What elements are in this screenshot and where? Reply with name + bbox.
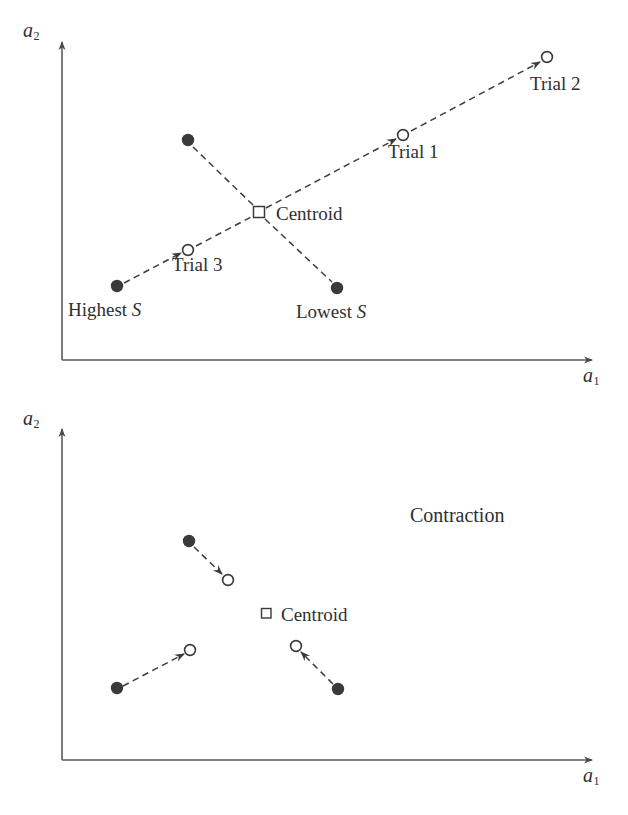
simplex-optimization-figure: a2 a1 Highest S Lowest S Centroid Trial … — [0, 0, 628, 815]
point-trial-right-bottom-panel — [291, 641, 302, 652]
point-vertex-right-bottom-panel — [332, 683, 344, 695]
point-lowest-s — [331, 282, 343, 294]
dashed-left-contraction — [123, 654, 184, 686]
x-axis-label-sub-top: 1 — [593, 374, 600, 388]
label-lowest-s: Lowest S — [296, 302, 366, 321]
label-trial-2: Trial 2 — [530, 74, 581, 93]
symbol-s-highest: S — [132, 299, 142, 320]
x-axis-label-bottom: a1 — [583, 765, 600, 787]
dashed-trial1-to-trial2 — [411, 62, 540, 131]
point-vertex-upper — [182, 134, 194, 146]
label-centroid-top: Centroid — [276, 204, 343, 223]
reflection-expansion-plot — [0, 0, 628, 400]
panel-reflection-expansion: a2 a1 Highest S Lowest S Centroid Trial … — [0, 0, 628, 400]
symbol-s-lowest: S — [357, 301, 367, 322]
label-highest-s: Highest S — [68, 300, 141, 319]
point-vertex-top-bottom-panel — [183, 535, 195, 547]
dashed-top-contraction — [194, 547, 222, 574]
x-axis-label-text-bottom: a — [583, 764, 593, 786]
point-vertex-left-bottom-panel — [111, 682, 123, 694]
y-axis-label-text-bottom: a — [23, 407, 33, 429]
dashed-trial3-to-centroid — [196, 216, 253, 246]
dashed-centroid-to-lowest — [265, 219, 332, 282]
dashed-vertex-to-centroid — [193, 147, 254, 206]
y-axis-label-top: a2 — [23, 20, 40, 42]
label-contraction: Contraction — [410, 505, 504, 525]
y-axis-label-text-top: a — [23, 19, 33, 41]
label-trial-1: Trial 1 — [388, 142, 439, 161]
axes-group-bottom — [62, 429, 592, 760]
y-axis-label-sub-top: 2 — [33, 29, 40, 43]
point-trial-1 — [398, 130, 409, 141]
panel-contraction: a2 a1 Centroid Contraction — [0, 400, 628, 815]
point-trial-2 — [542, 52, 553, 63]
point-centroid-square — [254, 207, 265, 218]
x-axis-label-top: a1 — [583, 365, 600, 387]
y-axis-label-bottom: a2 — [23, 408, 40, 430]
point-centroid-square-bottom — [262, 609, 272, 619]
x-axis-label-sub-bottom: 1 — [593, 774, 600, 788]
label-centroid-bottom: Centroid — [281, 605, 348, 624]
point-highest-s — [111, 280, 123, 292]
y-axis-label-sub-bottom: 2 — [33, 417, 40, 431]
point-trial-left-bottom-panel — [185, 645, 196, 656]
label-trial-3: Trial 3 — [172, 255, 223, 274]
dashed-centroid-to-trial1 — [266, 139, 396, 208]
point-trial-top-bottom-panel — [223, 575, 234, 586]
x-axis-label-text-top: a — [583, 364, 593, 386]
dashed-right-contraction — [301, 652, 333, 684]
